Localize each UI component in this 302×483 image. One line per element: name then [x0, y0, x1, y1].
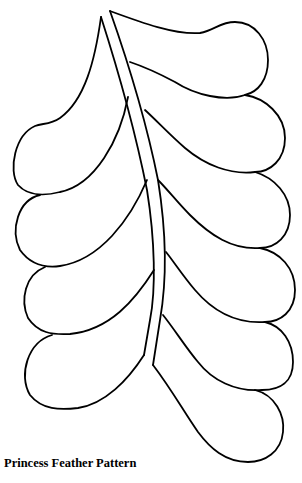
left-plume-2	[16, 180, 147, 266]
princess-feather-illustration	[0, 0, 302, 483]
pattern-caption: Princess Feather Pattern	[4, 456, 136, 471]
right-plume-3	[158, 172, 290, 248]
left-plume-1	[13, 17, 128, 194]
right-plume-2	[145, 95, 285, 173]
left-plume-3	[24, 267, 154, 334]
right-plume-5	[163, 315, 293, 390]
right-plume-4	[166, 248, 295, 322]
left-plume-4	[25, 335, 144, 409]
